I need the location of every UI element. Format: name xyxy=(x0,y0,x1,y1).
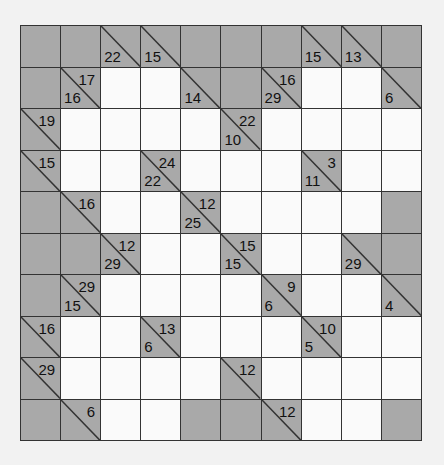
clue-cell: 15 xyxy=(21,151,60,192)
entry-cell[interactable] xyxy=(141,275,180,316)
down-clue: 15 xyxy=(144,49,161,64)
down-clue: 13 xyxy=(345,49,362,64)
entry-cell[interactable] xyxy=(342,275,381,316)
entry-cell[interactable] xyxy=(262,151,301,192)
across-clue: 13 xyxy=(159,321,176,336)
clue-cell: 4 xyxy=(382,275,421,316)
entry-cell[interactable] xyxy=(101,400,140,441)
down-clue: 14 xyxy=(184,90,201,105)
entry-cell[interactable] xyxy=(302,234,341,275)
block-cell xyxy=(21,400,60,441)
down-clue: 10 xyxy=(224,132,241,147)
across-clue: 15 xyxy=(38,155,55,170)
down-clue: 22 xyxy=(144,173,161,188)
entry-cell[interactable] xyxy=(181,317,220,358)
block-cell xyxy=(382,26,421,67)
entry-cell[interactable] xyxy=(181,151,220,192)
entry-cell[interactable] xyxy=(262,234,301,275)
down-clue: 22 xyxy=(104,49,121,64)
clue-cell: 29 xyxy=(342,234,381,275)
down-clue: 5 xyxy=(305,339,313,354)
entry-cell[interactable] xyxy=(302,109,341,150)
block-cell xyxy=(382,400,421,441)
entry-cell[interactable] xyxy=(302,192,341,233)
clue-cell: 2210 xyxy=(221,109,260,150)
block-cell xyxy=(221,26,260,67)
entry-cell[interactable] xyxy=(342,151,381,192)
block-cell xyxy=(262,26,301,67)
entry-cell[interactable] xyxy=(141,358,180,399)
entry-cell[interactable] xyxy=(101,68,140,109)
block-cell xyxy=(21,26,60,67)
entry-cell[interactable] xyxy=(61,358,100,399)
entry-cell[interactable] xyxy=(302,275,341,316)
across-clue: 9 xyxy=(287,279,295,294)
entry-cell[interactable] xyxy=(342,192,381,233)
block-cell xyxy=(21,234,60,275)
clue-cell: 6 xyxy=(382,68,421,109)
entry-cell[interactable] xyxy=(181,234,220,275)
entry-cell[interactable] xyxy=(221,151,260,192)
entry-cell[interactable] xyxy=(141,400,180,441)
clue-cell: 2422 xyxy=(141,151,180,192)
entry-cell[interactable] xyxy=(262,192,301,233)
clue-cell: 105 xyxy=(302,317,341,358)
clue-cell: 12 xyxy=(262,400,301,441)
clue-cell: 1229 xyxy=(101,234,140,275)
across-clue: 12 xyxy=(119,238,136,253)
entry-cell[interactable] xyxy=(342,358,381,399)
entry-cell[interactable] xyxy=(262,358,301,399)
entry-cell[interactable] xyxy=(342,68,381,109)
entry-cell[interactable] xyxy=(302,400,341,441)
clue-cell: 96 xyxy=(262,275,301,316)
clue-cell: 13 xyxy=(342,26,381,67)
clue-cell: 14 xyxy=(181,68,220,109)
entry-cell[interactable] xyxy=(101,109,140,150)
entry-cell[interactable] xyxy=(302,68,341,109)
clue-cell: 29 xyxy=(21,358,60,399)
entry-cell[interactable] xyxy=(101,317,140,358)
entry-cell[interactable] xyxy=(342,109,381,150)
entry-cell[interactable] xyxy=(181,275,220,316)
entry-cell[interactable] xyxy=(141,234,180,275)
entry-cell[interactable] xyxy=(101,358,140,399)
down-clue: 29 xyxy=(265,90,282,105)
clue-cell: 15 xyxy=(141,26,180,67)
entry-cell[interactable] xyxy=(382,109,421,150)
entry-cell[interactable] xyxy=(61,109,100,150)
down-clue: 29 xyxy=(345,256,362,271)
entry-cell[interactable] xyxy=(61,151,100,192)
clue-cell: 6 xyxy=(61,400,100,441)
across-clue: 16 xyxy=(79,196,96,211)
block-cell xyxy=(61,234,100,275)
entry-cell[interactable] xyxy=(141,68,180,109)
entry-cell[interactable] xyxy=(342,317,381,358)
entry-cell[interactable] xyxy=(382,358,421,399)
entry-cell[interactable] xyxy=(61,317,100,358)
clue-cell: 1225 xyxy=(181,192,220,233)
entry-cell[interactable] xyxy=(181,358,220,399)
entry-cell[interactable] xyxy=(101,275,140,316)
entry-cell[interactable] xyxy=(342,400,381,441)
entry-cell[interactable] xyxy=(382,317,421,358)
entry-cell[interactable] xyxy=(221,192,260,233)
down-clue: 15 xyxy=(64,298,81,313)
down-clue: 25 xyxy=(184,215,201,230)
block-cell xyxy=(21,68,60,109)
entry-cell[interactable] xyxy=(262,109,301,150)
across-clue: 3 xyxy=(327,155,335,170)
entry-cell[interactable] xyxy=(141,109,180,150)
entry-cell[interactable] xyxy=(221,275,260,316)
clue-cell: 311 xyxy=(302,151,341,192)
entry-cell[interactable] xyxy=(141,192,180,233)
entry-cell[interactable] xyxy=(181,109,220,150)
entry-cell[interactable] xyxy=(382,151,421,192)
entry-cell[interactable] xyxy=(302,358,341,399)
across-clue: 10 xyxy=(319,321,336,336)
entry-cell[interactable] xyxy=(221,317,260,358)
entry-cell[interactable] xyxy=(262,317,301,358)
across-clue: 15 xyxy=(239,238,256,253)
across-clue: 6 xyxy=(87,404,95,419)
entry-cell[interactable] xyxy=(101,192,140,233)
entry-cell[interactable] xyxy=(101,151,140,192)
